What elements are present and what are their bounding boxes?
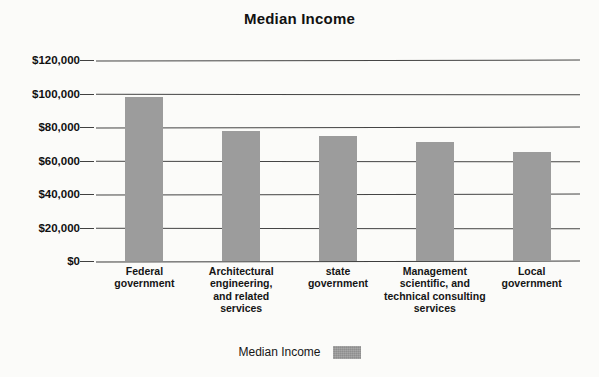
y-axis-tick-label: $80,000 bbox=[0, 121, 80, 133]
y-axis-tick bbox=[80, 60, 94, 61]
x-axis-label: Architecturalengineering,and relatedserv… bbox=[187, 265, 295, 315]
x-axis-category-labels: FederalgovernmentArchitecturalengineerin… bbox=[96, 265, 580, 335]
x-axis-label-line: technical consulting bbox=[381, 290, 489, 302]
gridline bbox=[96, 93, 580, 95]
x-axis-label-line: government bbox=[90, 277, 198, 289]
x-axis-label-line: government bbox=[284, 277, 392, 289]
y-axis-tick-label: $20,000 bbox=[0, 222, 80, 234]
gridline bbox=[96, 127, 580, 129]
x-axis-label-line: Architectural bbox=[187, 265, 295, 277]
bar bbox=[125, 97, 163, 261]
chart-title: Median Income bbox=[0, 10, 599, 27]
legend-swatch-median-income bbox=[333, 346, 361, 359]
x-axis-label-line: services bbox=[381, 302, 489, 314]
bar bbox=[319, 136, 357, 261]
x-axis-label-line: state bbox=[284, 265, 392, 277]
chart-container: Median Income $120,000$100,000$80,000$60… bbox=[0, 0, 599, 377]
y-axis-tick bbox=[80, 127, 94, 128]
x-axis-label-line: Local bbox=[478, 265, 586, 277]
x-axis-label-line: Federal bbox=[90, 265, 198, 277]
x-axis-label-line: engineering, bbox=[187, 277, 295, 289]
legend-label-median-income: Median Income bbox=[238, 345, 320, 359]
y-axis-tick-label: $40,000 bbox=[0, 188, 80, 200]
x-axis-label-line: scientific, and bbox=[381, 277, 489, 289]
y-axis-tick bbox=[80, 161, 94, 162]
gridline bbox=[96, 60, 580, 62]
x-axis-label-line: government bbox=[478, 277, 586, 289]
x-axis-label: Managementscientific, andtechnical consu… bbox=[381, 265, 489, 315]
x-axis-label: Localgovernment bbox=[478, 265, 586, 290]
bar bbox=[416, 142, 454, 261]
y-axis-tick-label: $0 bbox=[0, 255, 80, 267]
y-axis-tick bbox=[80, 94, 94, 95]
bar bbox=[513, 152, 551, 261]
y-axis-tick-labels: $120,000$100,000$80,000$60,000$40,000$20… bbox=[0, 0, 80, 377]
y-axis-tick bbox=[80, 228, 94, 229]
x-axis-label-line: services bbox=[187, 302, 295, 314]
x-axis-label-line: and related bbox=[187, 290, 295, 302]
y-axis-tick-label: $100,000 bbox=[0, 88, 80, 100]
plot-area bbox=[96, 60, 580, 261]
x-axis-label-line: Management bbox=[381, 265, 489, 277]
bar bbox=[222, 131, 260, 261]
chart-legend: Median Income bbox=[0, 345, 599, 359]
y-axis-tick-label: $60,000 bbox=[0, 155, 80, 167]
y-axis-tick bbox=[80, 194, 94, 195]
x-axis-label: Federalgovernment bbox=[90, 265, 198, 290]
y-axis-tick-label: $120,000 bbox=[0, 54, 80, 66]
x-axis-label: stategovernment bbox=[284, 265, 392, 290]
y-axis-tick bbox=[80, 261, 94, 262]
